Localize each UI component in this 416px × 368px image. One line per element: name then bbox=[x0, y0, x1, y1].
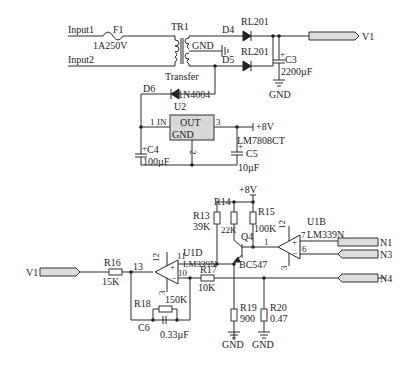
input1-net: Input1 F1 1A250V bbox=[68, 24, 175, 51]
resistor-r16: R16 15K bbox=[102, 257, 153, 287]
c3-value: 2200µF bbox=[281, 66, 313, 77]
c3-ref: C3 bbox=[285, 54, 297, 65]
d5-ref: D5 bbox=[222, 54, 234, 65]
r17-value: 10K bbox=[198, 282, 216, 293]
c5-ref: C5 bbox=[246, 148, 258, 159]
capacitor-c5: + C5 10µF bbox=[231, 127, 260, 173]
diode-d5: D5 RL201 bbox=[222, 36, 273, 71]
q4-ref: Q4 bbox=[241, 231, 253, 242]
u1d-pin10: 10 bbox=[178, 268, 188, 278]
r20-ref: R20 bbox=[270, 302, 287, 313]
circuit-schematic: Input1 F1 1A250V Input2 TR1 GND Transfer bbox=[0, 0, 416, 368]
vplus2-label: +8V bbox=[239, 184, 258, 195]
r15-value: 100K bbox=[254, 223, 277, 234]
u1d-pin12: 12 bbox=[151, 253, 161, 262]
port-n4[interactable]: N4 bbox=[338, 273, 392, 284]
u1b-ref: U1B bbox=[307, 216, 326, 227]
transformer-label: Transfer bbox=[165, 71, 199, 82]
q4-part: BC547 bbox=[239, 259, 267, 270]
d4-ref: D4 bbox=[222, 24, 234, 35]
input2-label: Input2 bbox=[68, 54, 94, 65]
u2-pin1: 1 bbox=[150, 117, 155, 127]
r14-ref: R14 bbox=[214, 196, 231, 207]
transformer-ref: TR1 bbox=[171, 21, 189, 32]
node13-label: 13 bbox=[133, 261, 143, 272]
c6-value: 0.33µF bbox=[160, 329, 189, 340]
r16-ref: R16 bbox=[104, 257, 121, 268]
vplus-label: +8V bbox=[256, 121, 275, 132]
transformer-tap: GND bbox=[192, 40, 214, 51]
v1-in-label: V1 bbox=[26, 267, 38, 278]
d5-part: RL201 bbox=[241, 46, 269, 57]
port-n3[interactable]: N3 bbox=[338, 249, 392, 260]
svg-text:−: − bbox=[171, 273, 176, 283]
r16-value: 15K bbox=[102, 276, 120, 287]
input2-net: Input2 bbox=[68, 54, 175, 66]
r18-value: 150K bbox=[165, 294, 188, 305]
u1d-ref: U1D bbox=[183, 247, 202, 258]
u2-part: LM7808CT bbox=[237, 135, 285, 146]
r18-ref: R18 bbox=[134, 298, 151, 309]
u1b-pin7: 7 bbox=[301, 230, 306, 240]
svg-text:−: − bbox=[292, 248, 297, 258]
u2-out: OUT bbox=[180, 117, 201, 128]
d6-part: 1N4004 bbox=[178, 89, 210, 100]
u2-pin3: 3 bbox=[216, 117, 221, 127]
input1-label: Input1 bbox=[68, 24, 94, 35]
u1b-pin3: 3 bbox=[279, 265, 289, 270]
u1b-pin6: 6 bbox=[302, 244, 307, 254]
d6-ref: D6 bbox=[143, 83, 155, 94]
diode-d4: D4 RL201 bbox=[222, 16, 309, 41]
u2-ref: U2 bbox=[174, 101, 186, 112]
gnd-a-label: GND bbox=[222, 339, 244, 350]
r13-value: 39K bbox=[193, 221, 211, 232]
c4-ref: C4 bbox=[147, 144, 159, 155]
port-v1-in[interactable]: V1 bbox=[26, 267, 80, 278]
u2-in: IN bbox=[157, 117, 167, 127]
gnd-b-label: GND bbox=[252, 339, 274, 350]
r15-ref: R15 bbox=[258, 206, 275, 217]
r20-value: 0.47 bbox=[270, 313, 288, 324]
resistor-r20: R20 0.47 GND bbox=[252, 276, 288, 350]
svg-text:+: + bbox=[292, 237, 297, 247]
r19-ref: R19 bbox=[240, 302, 257, 313]
r14-value: 22K bbox=[221, 225, 237, 235]
junction bbox=[271, 34, 275, 38]
n3-label: N3 bbox=[380, 249, 392, 260]
d4-part: RL201 bbox=[241, 16, 269, 27]
capacitor-c3: + C3 2200µF GND bbox=[269, 36, 313, 100]
r13-ref: R13 bbox=[193, 210, 210, 221]
v1-out-label: V1 bbox=[362, 31, 374, 42]
n4-label: N4 bbox=[380, 273, 392, 284]
svg-text:+: + bbox=[238, 141, 243, 151]
u1b-pin12: 12 bbox=[277, 220, 287, 229]
c6-ref: C6 bbox=[138, 322, 150, 333]
r17-ref: R17 bbox=[200, 264, 217, 275]
u1b-pin1: 1 bbox=[264, 237, 269, 247]
port-v1-out[interactable]: V1 bbox=[309, 31, 374, 42]
svg-text:+: + bbox=[170, 262, 175, 272]
n1-label: N1 bbox=[380, 237, 392, 248]
u2-pin2: 2 bbox=[188, 150, 198, 155]
u2-gnd: GND bbox=[172, 129, 194, 140]
port-n1[interactable]: N1 bbox=[338, 237, 392, 248]
fuse-value: 1A250V bbox=[93, 40, 128, 51]
c5-value: 10µF bbox=[238, 162, 260, 173]
transformer-tr1: TR1 GND Transfer bbox=[165, 21, 222, 82]
gnd1-label: GND bbox=[269, 89, 291, 100]
fuse-ref: F1 bbox=[113, 24, 124, 35]
feedback-network: R18 150K C6 0.33µF bbox=[131, 272, 190, 340]
c4-value: 100µF bbox=[143, 156, 170, 167]
r19-value: 900 bbox=[240, 313, 255, 324]
